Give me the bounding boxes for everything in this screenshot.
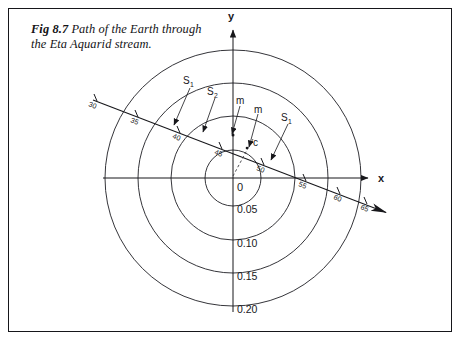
annotation-leader-group: [174, 88, 288, 160]
label-m-first: m: [236, 95, 244, 106]
origin-label: 0: [237, 181, 243, 193]
radial-label-0.15: 0.15: [237, 270, 258, 282]
label-s1-lower: S: [281, 112, 288, 123]
label-s2: S: [207, 86, 214, 97]
path-marker-m-first: [232, 134, 235, 137]
polar-plot: x y 0 0.05 0.10 0.15 0.20 30 35 40 45 50…: [0, 0, 461, 342]
annotation-label-group: S 1 S 2 m m S 1 c: [183, 75, 292, 148]
label-s1-upper: S: [183, 75, 190, 86]
y-axis-label: y: [228, 10, 235, 22]
path-tick-group: [94, 94, 367, 204]
label-s1-upper-subscript: 1: [190, 81, 194, 88]
path-tick-label-55: 55: [297, 179, 308, 190]
label-s2-subscript: 2: [214, 92, 218, 99]
leader-line-s2: [203, 98, 215, 132]
radial-label-0.10: 0.10: [237, 237, 258, 249]
path-tick-label-60: 60: [332, 192, 343, 203]
leader-line-s1-lower: [271, 124, 288, 160]
radial-label-0.05: 0.05: [237, 203, 258, 215]
label-c: c: [253, 137, 258, 148]
path-tick-label-40: 40: [171, 131, 182, 142]
label-m-second: m: [254, 104, 262, 115]
path-tick-label-30: 30: [87, 99, 98, 110]
path-tick-label-65: 65: [359, 202, 370, 213]
path-tick-label-50: 50: [255, 163, 266, 174]
path-marker-c: [246, 147, 249, 150]
x-axis-label: x: [378, 172, 385, 184]
leader-line-s1-upper: [174, 88, 190, 125]
path-marker-group: [232, 134, 249, 150]
path-tick-label-35: 35: [129, 115, 140, 126]
radial-label-0.20: 0.20: [237, 303, 258, 315]
label-s1-lower-subscript: 1: [288, 118, 292, 125]
